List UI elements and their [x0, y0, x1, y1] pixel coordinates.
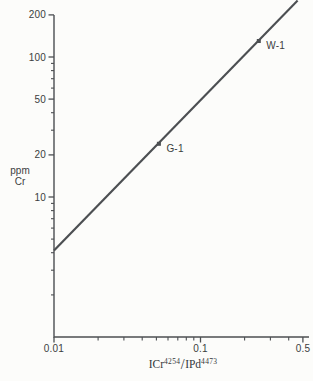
data-point-label: G-1 — [166, 143, 184, 154]
y-tick-label: 50 — [34, 94, 46, 105]
x-axis-title: ICr4254/IPd4473 — [83, 357, 283, 373]
x-tick-label: 0.1 — [193, 343, 208, 354]
calibration-line — [54, 1, 298, 251]
x-axis-title-numerator-wavelength: 4254 — [164, 357, 180, 366]
x-axis-title-denominator-wavelength: 4473 — [201, 357, 217, 366]
axes — [54, 15, 309, 337]
y-axis-title-line1: ppm — [6, 166, 34, 177]
y-axis-title: ppm Cr — [6, 166, 34, 187]
x-tick-label: 0.5 — [296, 343, 311, 354]
y-tick-label: 100 — [29, 52, 47, 63]
data-point-marker — [257, 39, 261, 43]
chart-canvas: 1020501002000.010.10.5G-1W-1 — [0, 0, 313, 381]
data-point-marker — [157, 142, 161, 146]
y-tick-label: 20 — [34, 149, 46, 160]
x-tick-label: 0.01 — [44, 343, 65, 354]
x-axis-title-denominator: IPd — [185, 358, 201, 370]
calibration-figure: 1020501002000.010.10.5G-1W-1 ppm Cr ICr4… — [0, 0, 313, 381]
y-axis-title-line2: Cr — [6, 177, 34, 188]
y-tick-label: 10 — [34, 192, 46, 203]
x-axis-title-numerator: ICr — [149, 358, 164, 370]
y-tick-label: 200 — [29, 9, 47, 20]
data-point-label: W-1 — [266, 40, 285, 51]
